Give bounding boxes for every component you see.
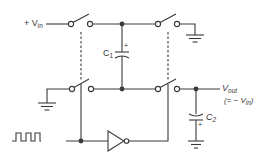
ground-icon [38, 103, 56, 110]
vin-label: + Vin [24, 19, 43, 30]
clock-drive [12, 84, 168, 151]
square-wave-icon [12, 133, 41, 141]
inverter-gate [108, 131, 129, 151]
capacitor-c2 [188, 89, 204, 148]
vout-equation: (= − Vin) [224, 97, 254, 107]
bottom-rail [38, 79, 220, 110]
c1-polarity: + [124, 42, 128, 49]
c2-polarity: + [198, 121, 202, 128]
switch-top-right [155, 14, 179, 27]
capacitor-c1 [115, 24, 129, 89]
node-c1-bottom [120, 87, 125, 92]
c2-label: C2 [206, 113, 216, 124]
top-rail [46, 14, 204, 42]
ground-icon [188, 141, 204, 148]
vout-label: Vout [222, 84, 237, 95]
switch-top-left [68, 14, 92, 27]
ground-icon [186, 35, 204, 42]
c1-label: C1 [103, 49, 113, 60]
